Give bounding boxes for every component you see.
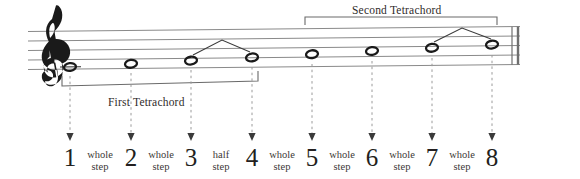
interval-7-8-line2: step [441, 161, 483, 173]
music-scale-diagram: Second Tetrachord First Tetrachord 1 2 3… [0, 0, 580, 179]
staff-line-5 [28, 65, 520, 70]
staff-line-4 [28, 55, 520, 60]
treble-clef [42, 5, 70, 86]
interval-7-8-line1: whole [441, 149, 483, 161]
staff-line-2 [28, 36, 520, 41]
arrowhead-degree-1 [66, 133, 73, 141]
arrowhead-degree-7 [428, 133, 435, 141]
interval-1-2: whole step [79, 149, 121, 173]
interval-4-5-line2: step [261, 161, 303, 173]
staff [28, 27, 520, 70]
interval-6-7-line2: step [381, 161, 423, 173]
interval-6-7: whole step [381, 149, 423, 173]
interval-2-3-line1: whole [140, 149, 182, 161]
arrowhead-degree-4 [248, 133, 255, 141]
second-tetrachord-bracket [305, 17, 497, 25]
interval-4-5-line1: whole [261, 149, 303, 161]
interval-7-8: whole step [441, 149, 483, 173]
half-step-marker-3-4 [193, 40, 250, 55]
arrowhead-degree-2 [127, 133, 134, 141]
staff-line-3 [28, 46, 520, 51]
interval-5-6: whole step [321, 149, 363, 173]
notehead-degree-7 [426, 43, 439, 52]
arrowhead-degree-3 [187, 133, 194, 141]
first-tetrachord-label: First Tetrachord [108, 96, 185, 108]
scale-degree-8: 8 [480, 145, 504, 170]
notehead-degree-6 [366, 46, 379, 55]
interval-1-2-line2: step [79, 161, 121, 173]
half-step-marker-7-8 [434, 28, 491, 42]
interval-3-4: half step [200, 149, 242, 173]
arrowhead-degree-5 [308, 133, 315, 141]
interval-6-7-line1: whole [381, 149, 423, 161]
interval-5-6-line2: step [321, 161, 363, 173]
interval-2-3: whole step [140, 149, 182, 173]
staff-line-1 [28, 27, 520, 32]
arrowhead-degree-8 [488, 133, 495, 141]
arrowhead-degree-6 [368, 133, 375, 141]
notehead-degree-8 [486, 40, 499, 49]
second-tetrachord-label: Second Tetrachord [352, 4, 442, 16]
notehead-degree-5 [306, 50, 319, 59]
interval-3-4-line2: step [200, 161, 242, 173]
interval-5-6-line1: whole [321, 149, 363, 161]
interval-4-5: whole step [261, 149, 303, 173]
interval-1-2-line1: whole [79, 149, 121, 161]
first-tetrachord-bracket [62, 71, 258, 86]
notehead-degree-3 [185, 56, 198, 65]
interval-2-3-line2: step [140, 161, 182, 173]
leader-arrowheads [66, 133, 495, 141]
notehead-degree-2 [125, 59, 138, 68]
interval-3-4-line1: half [200, 149, 242, 161]
